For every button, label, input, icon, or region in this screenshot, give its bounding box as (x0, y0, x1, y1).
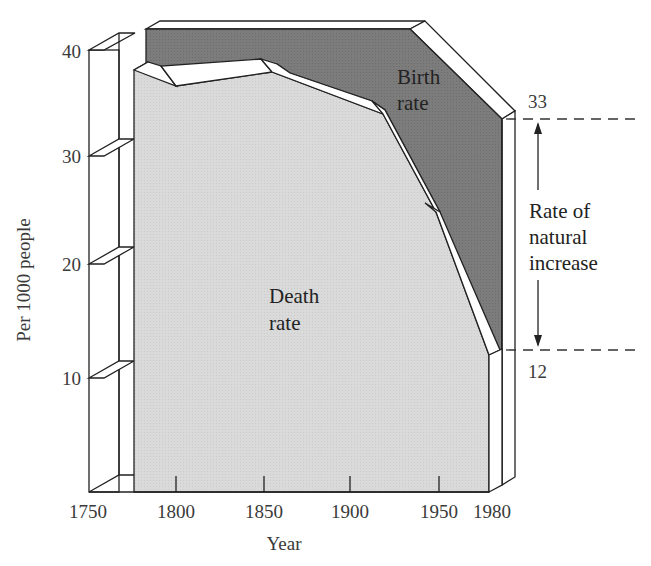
y-axis-title: Per 1000 people (13, 218, 34, 341)
natural-increase-label-line2: natural (529, 225, 587, 249)
birth-death-rate-chart: 40 30 20 10 1750 1800 1850 1900 1950 198… (0, 0, 651, 566)
arrow-up-icon (534, 122, 542, 134)
y-tick-labels: 40 30 20 10 (62, 41, 81, 389)
death-rate-label-line2: rate (269, 311, 300, 335)
death-rate-label-line1: Death (269, 284, 320, 308)
x-tick-1980: 1980 (473, 501, 511, 522)
end-value-birth: 33 (528, 91, 547, 112)
x-tick-1750: 1750 (69, 501, 107, 522)
y-tick-40: 40 (62, 41, 81, 62)
natural-increase-label-line3: increase (529, 251, 598, 275)
end-value-death: 12 (528, 361, 547, 382)
y-tick-20: 20 (62, 254, 81, 275)
end-pillar-1980 (502, 111, 515, 485)
y-axis-pillar (89, 33, 135, 492)
x-tick-labels: 1750 1800 1850 1900 1950 1980 (69, 501, 511, 522)
x-tick-1850: 1850 (245, 501, 283, 522)
x-tick-1950: 1950 (420, 501, 458, 522)
birth-rate-label-line2: rate (397, 91, 428, 115)
natural-increase-annotation: 33 12 Rate of natural increase (506, 91, 637, 382)
x-tick-1800: 1800 (157, 501, 195, 522)
y-tick-10: 10 (62, 368, 81, 389)
birth-rate-label-line1: Birth (397, 65, 441, 89)
arrow-down-icon (534, 335, 542, 347)
x-tick-1900: 1900 (331, 501, 369, 522)
natural-increase-label-line1: Rate of (529, 199, 590, 223)
y-tick-30: 30 (62, 146, 81, 167)
x-axis-title: Year (266, 533, 302, 554)
